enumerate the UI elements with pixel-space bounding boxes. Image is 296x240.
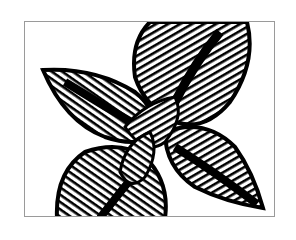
leaf-illustration xyxy=(25,22,275,217)
leaf-bottom-right xyxy=(165,127,263,208)
artwork-frame xyxy=(24,21,275,217)
